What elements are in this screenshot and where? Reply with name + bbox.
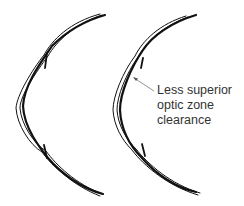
annotation-arrow: [133, 77, 154, 91]
annotation-line-2: optic zone: [157, 98, 232, 113]
annotation-label: Less superior optic zone clearance: [157, 83, 232, 128]
left-panel: [16, 14, 105, 196]
annotation-line-1: Less superior: [157, 83, 232, 98]
left-cornea-inner: [20, 15, 102, 194]
annotation-line-3: clearance: [157, 113, 232, 128]
left-lens: [23, 15, 105, 194]
